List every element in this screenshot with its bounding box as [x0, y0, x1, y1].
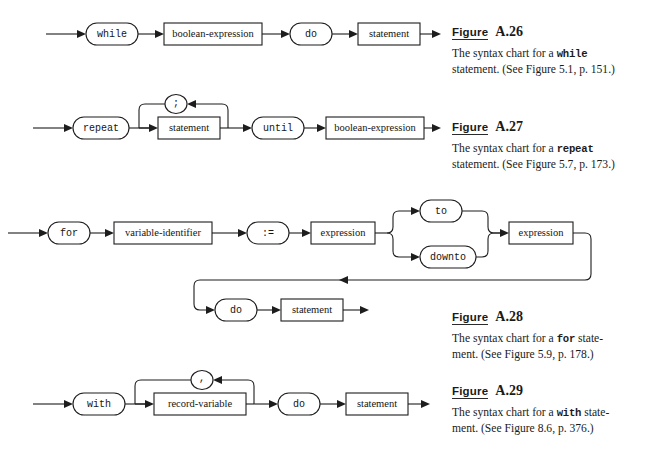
caption-keyword: for — [557, 333, 575, 345]
arrow-into-boolean-expression — [155, 30, 164, 38]
terminal-until — [252, 117, 304, 139]
caption-line2: statement. (See Figure 5.1, p. 151.) — [452, 63, 615, 76]
arrow-into-expression-1 — [302, 229, 311, 237]
terminal-repeat — [73, 117, 129, 139]
arrow-into-expression-2 — [500, 229, 509, 237]
nonterminal-expression-1 — [311, 222, 375, 244]
arrow-into-statement — [349, 30, 358, 38]
syntax-chart-page: while boolean-expression do statement re… — [0, 0, 654, 449]
terminal-with-do — [278, 393, 320, 415]
arrow-exit-with-chart — [421, 400, 430, 408]
figure-caption-a27: FigureA.27 The syntax chart for a repeat… — [452, 118, 650, 172]
arrow-into-do — [281, 30, 290, 38]
for-feedback-path — [194, 233, 591, 310]
figure-caption-a26: FigureA.26 The syntax chart for a whiles… — [452, 23, 650, 77]
caption-pre: The syntax chart for a — [452, 332, 557, 345]
caption-post: state- — [575, 332, 603, 345]
for-branch-split-up — [387, 211, 411, 233]
nonterminal-variable-identifier — [114, 222, 212, 244]
terminal-while-label: while — [97, 29, 127, 40]
caption-post: state- — [581, 406, 609, 419]
caption-pre: The syntax chart for a — [452, 47, 557, 60]
arrow-into-until — [243, 124, 252, 132]
nonterminal-variable-identifier-label: variable-identifier — [125, 227, 201, 238]
nonterminal-expression-2-label: expression — [519, 227, 565, 238]
terminal-downto — [420, 246, 476, 268]
arrow-feedback-left — [339, 276, 348, 284]
caption-keyword: repeat — [557, 143, 594, 155]
figure-number: A.27 — [495, 120, 523, 135]
caption-keyword: while — [557, 48, 588, 60]
nonterminal-expression-1-label: expression — [321, 227, 367, 238]
caption-line2: ment. (See Figure 5.9, p. 178.) — [452, 348, 594, 361]
arrow-into-for-do — [206, 306, 215, 314]
arrow-into-with-statement — [337, 400, 346, 408]
nonterminal-repeat-statement-label: statement — [169, 122, 209, 133]
arrow-into-repeat-boolean-expression — [317, 124, 326, 132]
repeat-chart-group: repeat statement ; until boolean-express… — [33, 95, 441, 140]
terminal-assign — [247, 222, 289, 244]
terminal-with-label: with — [87, 399, 111, 410]
figure-label: Figure — [452, 26, 488, 40]
figure-label: Figure — [452, 311, 488, 325]
figure-caption-a27-heading: FigureA.27 — [452, 118, 650, 135]
arrow-into-for-statement — [272, 306, 281, 314]
nonterminal-with-statement-label: statement — [357, 398, 397, 409]
for-branch-merge-up — [462, 211, 500, 233]
arrow-exit-repeat-chart — [432, 124, 441, 132]
nonterminal-with-statement — [346, 393, 408, 415]
terminal-until-label: until — [263, 123, 293, 134]
figure-caption-a29-text: The syntax chart for a with state-ment. … — [452, 405, 650, 436]
figure-caption-a28-text: The syntax chart for a for state-ment. (… — [452, 331, 650, 362]
figure-number: A.26 — [495, 25, 523, 40]
terminal-with — [73, 393, 125, 415]
terminal-for-do — [215, 299, 257, 321]
nonterminal-repeat-boolean-expression-label: boolean-expression — [334, 122, 416, 133]
caption-line2: ment. (See Figure 8.6, p. 376.) — [452, 422, 594, 435]
terminal-for-do-label: do — [230, 305, 242, 316]
terminal-do — [290, 23, 332, 45]
terminal-for-label: for — [60, 228, 78, 239]
figure-caption-a28: FigureA.28 The syntax chart for a for st… — [452, 308, 650, 362]
terminal-semicolon-label: ; — [173, 98, 179, 109]
figure-number: A.29 — [495, 384, 523, 399]
nonterminal-boolean-expression — [164, 23, 262, 45]
nonterminal-repeat-boolean-expression — [326, 117, 424, 139]
figure-label: Figure — [452, 121, 488, 135]
figure-caption-a29: FigureA.29 The syntax chart for a with s… — [452, 382, 650, 436]
with-loop-right-riser — [222, 380, 254, 404]
terminal-comma — [191, 371, 213, 390]
repeat-loop-right-riser — [196, 104, 228, 128]
figure-caption-a26-heading: FigureA.26 — [452, 23, 650, 40]
for-branch-split-down — [387, 233, 411, 257]
terminal-to — [420, 200, 462, 222]
terminal-with-do-label: do — [293, 399, 305, 410]
nonterminal-record-variable — [154, 393, 246, 415]
terminal-downto-label: downto — [430, 252, 466, 263]
arrow-into-assign — [238, 229, 247, 237]
nonterminal-statement-label: statement — [369, 28, 409, 39]
terminal-while — [86, 23, 138, 45]
nonterminal-boolean-expression-label: boolean-expression — [172, 28, 254, 39]
nonterminal-for-statement-label: statement — [292, 304, 332, 315]
nonterminal-statement — [358, 23, 420, 45]
arrow-into-downto — [411, 253, 420, 261]
for-chart-group: for variable-identifier := expression to… — [8, 200, 591, 321]
nonterminal-record-variable-label: record-variable — [168, 398, 232, 409]
arrow-into-semicolon — [187, 100, 196, 108]
with-chart-group: with record-variable , do statement — [33, 371, 430, 416]
with-loop-left-descender — [135, 380, 191, 404]
caption-keyword: with — [557, 407, 582, 419]
figure-caption-a28-heading: FigureA.28 — [452, 308, 650, 325]
terminal-repeat-label: repeat — [83, 123, 119, 134]
terminal-do-label: do — [305, 29, 317, 40]
arrow-into-comma — [213, 376, 222, 384]
figure-number: A.28 — [495, 310, 523, 325]
repeat-loop-left-descender — [139, 104, 165, 128]
terminal-comma-label: , — [199, 373, 205, 384]
figure-label: Figure — [452, 385, 488, 399]
terminal-assign-label: := — [262, 228, 274, 239]
arrow-into-variable-identifier — [105, 229, 114, 237]
arrow-into-with-do — [269, 400, 278, 408]
arrow-into-repeat — [64, 124, 73, 132]
